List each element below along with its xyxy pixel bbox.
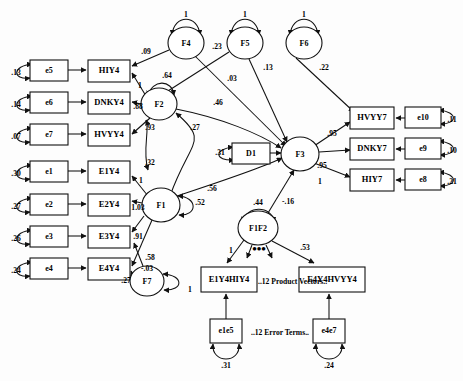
ellipse-label: F1: [157, 201, 166, 210]
coef-f1f2-p12: .53: [300, 243, 310, 252]
ellipse-f6: F6: [286, 27, 322, 59]
box-label: e1: [45, 167, 53, 176]
coef-e5: .13: [11, 68, 21, 77]
box-label: e6: [45, 98, 53, 107]
error-to-indicator-arrows: [68, 70, 86, 268]
box-e2y4: E2Y4: [88, 194, 130, 216]
box-e10: e10: [405, 107, 441, 128]
ellipse-f4: F4: [168, 27, 204, 59]
error-terms-note: ..12 Error Terms..: [251, 328, 309, 337]
box-hiy7: HIY7: [350, 169, 394, 191]
coef-f1-f2-cov: .32: [145, 158, 155, 167]
product-vectors-note: ..12 Product Vectors..: [258, 277, 327, 286]
box-hiy4: HIY4: [88, 60, 130, 82]
sem-path-diagram: e5 e6 e7 e1 e2 e3 e4 HIY4 DNKY4 HVYY4 E1…: [0, 0, 463, 381]
ellipse-f1: F1: [142, 188, 180, 222]
ellipse-label: F2: [155, 100, 164, 109]
coef-f2-dnky4: .88: [133, 102, 143, 111]
box-label: e2: [45, 200, 53, 209]
box-label: HVYY7: [357, 112, 387, 122]
diagram-canvas: e5 e6 e7 e1 e2 e3 e4 HIY4 DNKY4 HVYY4 E1…: [0, 0, 463, 381]
coef-f1-f3: .56: [207, 184, 217, 193]
coef-f1-e2y4: 1.03: [131, 203, 144, 212]
box-e5: e5: [30, 60, 68, 81]
coef-f1-e4y4: .58: [145, 253, 155, 262]
box-label: E1Y4HIY4: [209, 274, 250, 284]
box-label: e8: [419, 175, 427, 184]
coef-f1-e3y4: .91: [133, 232, 143, 241]
coef-e1: .30: [11, 169, 21, 178]
ellipse-label: F1F2: [249, 224, 267, 233]
box-label: DNKY7: [357, 143, 387, 153]
ellipse-f3: F3: [281, 137, 319, 171]
box-label: E4Y4: [99, 263, 120, 273]
box-e9: e9: [405, 138, 441, 159]
box-dnky7: DNKY7: [350, 138, 394, 160]
coef-f5-f3: .03: [227, 74, 237, 83]
box-label: E2Y4: [99, 199, 120, 209]
box-label: e5: [45, 66, 53, 75]
coef-f4-f5: .23: [212, 42, 222, 51]
box-label: e3: [45, 232, 53, 241]
box-label: e7: [45, 130, 53, 139]
box-label: e1e5: [218, 326, 233, 335]
coef-f4-loop: 1: [184, 10, 188, 19]
coef-f2-f1: .27: [190, 123, 200, 132]
coef-f6-loop: 1: [302, 10, 306, 19]
coef-f1f2-p1: 1: [229, 246, 233, 255]
coef-f6-hvyy7: .22: [319, 63, 329, 72]
observed-variable-boxes: e5 e6 e7 e1 e2 e3 e4 HIY4 DNKY4 HVYY4 E1…: [30, 60, 441, 343]
coef-f3-hvyy7: .95: [327, 129, 337, 138]
coef-f1f2-loop: .44: [253, 198, 263, 207]
box-label: e9: [419, 144, 427, 153]
box-e3y4: E3Y4: [88, 226, 130, 248]
coef-e3: .26: [11, 234, 21, 243]
coef-f2-hiy4: 1: [138, 81, 142, 90]
coef-e7: .07: [11, 132, 21, 141]
box-label: e10: [417, 113, 429, 122]
box-label: e4e7: [321, 326, 336, 335]
ellipse-label: F4: [182, 39, 191, 48]
ellipse-label: F7: [143, 277, 152, 286]
box-e7: e7: [30, 124, 68, 145]
box-label: D1: [246, 149, 256, 158]
coef-f1-e1y4: 1: [139, 176, 143, 185]
ellipse-f2: F2: [141, 88, 177, 120]
ellipse-label: F3: [296, 150, 305, 159]
coef-e9: .10: [447, 146, 457, 155]
ellipse-f1f2: F1F2: [238, 211, 278, 245]
box-e4e7: e4e7: [313, 319, 345, 343]
box-label: HIY7: [362, 174, 383, 184]
coef-f3-hiy7: 1: [318, 177, 322, 186]
coef-e10: .11: [447, 115, 456, 124]
box-label: DNKY4: [94, 97, 124, 107]
box-d1: D1: [232, 143, 270, 164]
coef-f7-loop: 1: [188, 285, 192, 294]
box-e1y4: E1Y4: [88, 161, 130, 183]
ellipsis-marker: •••: [252, 241, 266, 256]
box-hvyy7: HVYY7: [350, 107, 394, 129]
coef-f2-loop: .64: [162, 71, 172, 80]
box-e8: e8: [405, 169, 441, 190]
coef-e2: .27: [11, 202, 21, 211]
coef-d1: .31: [215, 148, 225, 157]
coef-f3-dnky7: .95: [317, 161, 327, 170]
ellipse-f5: F5: [227, 27, 263, 59]
box-label: HIY4: [99, 65, 120, 75]
box-label: E3Y4: [99, 231, 120, 241]
coef-f7-e3y4: -.03: [141, 264, 153, 273]
coef-e4: .24: [11, 266, 21, 275]
box-label: HVYY4: [94, 129, 124, 139]
coef-f1-loop: .52: [195, 198, 205, 207]
ellipse-label: F6: [300, 39, 309, 48]
box-e6: e6: [30, 92, 68, 113]
box-dnky4: DNKY4: [88, 92, 130, 114]
coef-e1e5: .31: [221, 361, 231, 370]
coef-f1f2-f3: -.16: [282, 197, 294, 206]
coef-f7-e4y4: .27: [121, 276, 131, 285]
coef-f5-x: .13: [263, 63, 273, 72]
box-label: E1Y4: [99, 166, 120, 176]
box-e1y4hiy4: E1Y4HIY4: [201, 267, 257, 292]
box-e3: e3: [30, 226, 68, 247]
box-e1: e1: [30, 161, 68, 182]
